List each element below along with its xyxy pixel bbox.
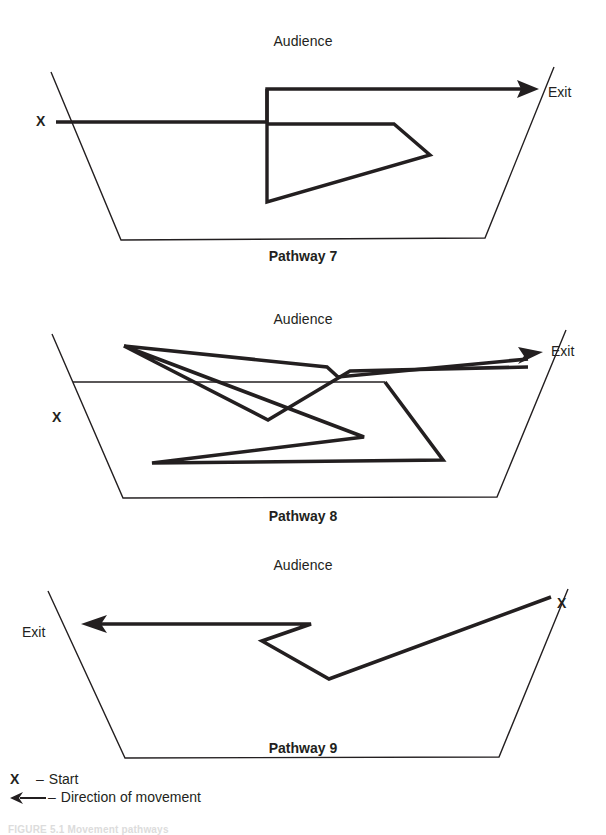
audience-label: Audience — [0, 311, 606, 327]
stage-outline-8 — [52, 330, 566, 498]
legend: X – Start – Direction of movement — [10, 770, 340, 806]
pathway-title: Pathway 8 — [0, 508, 606, 524]
start-marker-x: X — [557, 595, 566, 611]
legend-label-direction: Direction of movement — [61, 789, 201, 806]
movement-path-7 — [56, 89, 524, 202]
legend-item-direction: – Direction of movement — [10, 788, 340, 806]
legend-separator: – — [36, 771, 44, 788]
figure-root: Audience Exit X Pathway 7 Audience Exit … — [0, 0, 606, 835]
legend-item-start: X – Start — [10, 770, 340, 788]
start-marker-x: X — [52, 409, 61, 425]
legend-separator: – — [48, 789, 56, 806]
legend-label-start: Start — [49, 771, 79, 788]
exit-label: Exit — [548, 84, 571, 100]
left-arrow-icon — [10, 791, 48, 805]
pathway-panel-8: Audience Exit X Pathway 8 — [0, 285, 606, 550]
pathway-panel-7: Audience Exit X Pathway 7 — [0, 0, 606, 285]
audience-label: Audience — [0, 557, 606, 573]
stage-outline-9 — [48, 589, 568, 758]
figure-caption: FIGURE 5.1 Movement pathways — [8, 824, 169, 835]
exit-label: Exit — [551, 343, 574, 359]
direction-arrowhead-8 — [518, 347, 543, 364]
stage-outline-7 — [51, 67, 554, 240]
audience-label: Audience — [0, 33, 606, 49]
movement-path-8 — [73, 346, 528, 463]
start-marker-x: X — [36, 113, 45, 129]
start-x-icon: X — [10, 771, 36, 788]
exit-label: Exit — [22, 624, 45, 640]
pathway-panel-9: Audience Exit X Pathway 9 — [0, 550, 606, 765]
movement-path-9 — [100, 597, 551, 679]
pathway-9-diagram — [0, 550, 606, 765]
pathway-title: Pathway 9 — [0, 740, 606, 756]
pathway-title: Pathway 7 — [0, 248, 606, 264]
